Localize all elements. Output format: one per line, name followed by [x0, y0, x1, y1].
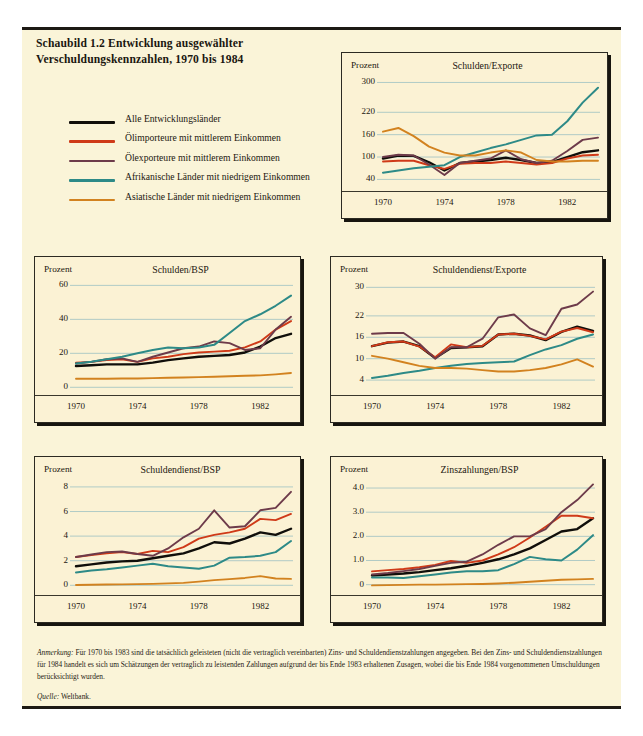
legend-item-label: Asiatische Länder mit niedrigem Einkomme…	[125, 191, 300, 202]
legend-item: Alle Entwicklungsländer	[69, 113, 339, 132]
series-line	[372, 292, 593, 359]
bottom-rule	[22, 706, 621, 709]
x-tick-label: 1970	[363, 197, 403, 207]
figure-note-text: Für 1970 bis 1983 sind die tatsächlich g…	[37, 648, 602, 681]
x-tick-label: 1970	[352, 401, 392, 411]
legend-swatch-line	[69, 160, 115, 163]
figure-page: Schaubild 1.2 Entwicklung ausgewählter V…	[0, 0, 643, 736]
legend-swatch-line	[69, 179, 115, 182]
legend-item-label: Afrikanische Länder mit niedrigem Einkom…	[125, 171, 310, 182]
chart-canvas	[34, 456, 301, 623]
series-line	[76, 576, 291, 585]
series-line	[76, 321, 291, 363]
x-tick-label: 1982	[547, 197, 587, 207]
x-tick-label: 1974	[424, 197, 464, 207]
x-tick-label: 1982	[541, 601, 581, 611]
chart-schuldendienst-bsp: ProzentSchuldendienst/BSP024681970197419…	[34, 456, 301, 623]
legend-swatch-line	[69, 121, 115, 124]
x-tick-label: 1970	[56, 401, 96, 411]
x-tick-label: 1978	[478, 401, 518, 411]
chart-schuldendienst-exporte: ProzentSchuldendienst/Exporte41016223019…	[330, 256, 603, 423]
x-tick-label: 1978	[486, 197, 526, 207]
x-axis-rule	[331, 595, 602, 596]
x-tick-label: 1978	[478, 601, 518, 611]
figure-source: Quelle: Weltbank.	[37, 692, 91, 701]
x-axis-rule	[342, 191, 607, 192]
legend: Alle EntwicklungsländerÖlimporteure mit …	[69, 113, 339, 210]
chart-schulden-exporte: ProzentSchulden/Exporte40100160220300197…	[341, 52, 608, 219]
x-axis-rule	[35, 395, 300, 396]
legend-item: Asiatische Länder mit niedrigem Einkomme…	[69, 191, 339, 210]
chart-canvas	[341, 52, 608, 219]
x-tick-label: 1974	[415, 601, 455, 611]
legend-item: Ölimporteure mit mittlerem Einkommen	[69, 132, 339, 151]
figure-title-line2: Verschuldungskennzahlen, 1970 bis 1984	[36, 52, 336, 68]
chart-canvas	[330, 456, 603, 623]
x-tick-label: 1982	[541, 401, 581, 411]
legend-swatch-line	[69, 199, 115, 202]
figure-note: Anmerkung: Für 1970 bis 1983 sind die ta…	[37, 647, 611, 683]
chart-canvas	[34, 256, 301, 423]
figure-title: Schaubild 1.2 Entwicklung ausgewählter V…	[36, 36, 336, 69]
x-tick-label: 1974	[415, 401, 455, 411]
figure-source-label: Quelle:	[37, 692, 59, 701]
series-line	[372, 518, 593, 575]
legend-item-label: Alle Entwicklungsländer	[125, 113, 221, 124]
top-rule	[22, 27, 621, 30]
series-line	[76, 317, 291, 364]
x-tick-label: 1982	[240, 401, 280, 411]
chart-schulden-bsp: ProzentSchulden/BSP020406019701974197819…	[34, 256, 301, 423]
legend-item-label: Ölimporteure mit mittlerem Einkommen	[125, 132, 281, 143]
x-tick-label: 1970	[56, 601, 96, 611]
x-tick-label: 1978	[179, 401, 219, 411]
series-line	[76, 373, 291, 379]
legend-item-label: Ölexporteure mit mittlerem Einkommen	[125, 152, 280, 163]
figure-source-text: Weltbank.	[59, 692, 91, 701]
figure-note-label: Anmerkung:	[37, 648, 74, 657]
x-tick-label: 1974	[117, 401, 157, 411]
x-tick-label: 1978	[179, 601, 219, 611]
figure-title-line1: Schaubild 1.2 Entwicklung ausgewählter	[36, 36, 336, 52]
series-line	[383, 138, 598, 175]
x-tick-label: 1970	[352, 601, 392, 611]
series-line	[372, 328, 593, 357]
x-axis-rule	[331, 395, 602, 396]
x-tick-label: 1982	[240, 601, 280, 611]
legend-item: Ölexporteure mit mittlerem Einkommen	[69, 152, 339, 171]
series-line	[76, 541, 291, 572]
chart-zinszahlungen-bsp: ProzentZinszahlungen/BSP01.02.03.04.0197…	[330, 456, 603, 623]
series-line	[76, 514, 291, 557]
series-line	[76, 334, 291, 366]
x-tick-label: 1974	[117, 601, 157, 611]
x-axis-rule	[35, 595, 300, 596]
chart-canvas	[330, 256, 603, 423]
legend-swatch-line	[69, 140, 115, 143]
legend-item: Afrikanische Länder mit niedrigem Einkom…	[69, 171, 339, 190]
